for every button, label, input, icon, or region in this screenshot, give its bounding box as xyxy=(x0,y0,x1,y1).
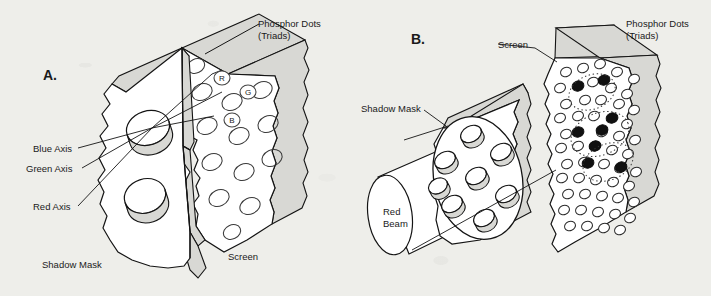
panel-a-red-axis-label: Red Axis xyxy=(33,201,71,212)
panel-b-phosphor-dots-label-line1: Phosphor Dots xyxy=(626,18,689,29)
panel-b-shadow-mask-label: Shadow Mask xyxy=(361,103,421,114)
crt-shadow-mask-figure: R G B A. Phosphor Dots (Triads) Blue Axi… xyxy=(0,0,711,296)
panel-b-red-beam-label-line1: Red xyxy=(383,206,400,217)
beam-marker-g-label: G xyxy=(245,88,251,97)
panel-b-letter: B. xyxy=(411,31,425,47)
panel-a: R G B A. Phosphor Dots (Triads) Blue Axi… xyxy=(26,14,321,278)
panel-b-screen-plate xyxy=(544,25,661,252)
panel-b-phosphor-dots-label-line2: (Triads) xyxy=(626,30,658,41)
panel-a-blue-axis-label: Blue Axis xyxy=(33,143,72,154)
beam-marker-g: G xyxy=(240,85,256,99)
panel-a-screen-label: Screen xyxy=(228,251,258,262)
panel-a-shadow-mask-label: Shadow Mask xyxy=(42,259,102,270)
panel-a-screen-plate xyxy=(182,14,309,252)
beam-marker-r-label: R xyxy=(219,74,225,83)
panel-b-shadow-mask-disc xyxy=(422,84,534,248)
panel-b: Red Beam xyxy=(361,18,689,258)
panel-b-red-beam-label-line2: Beam xyxy=(383,218,408,229)
panel-a-letter: A. xyxy=(43,67,57,83)
panel-b-screen-label: Screen xyxy=(498,39,528,50)
beam-marker-b: B xyxy=(224,113,240,127)
beam-marker-r: R xyxy=(214,71,230,85)
panel-a-phosphor-dots-label-line1: Phosphor Dots xyxy=(258,18,321,29)
panel-a-green-axis-label: Green Axis xyxy=(26,163,73,174)
panel-a-phosphor-dots-label-line2: (Triads) xyxy=(258,30,290,41)
beam-marker-b-label: B xyxy=(229,116,234,125)
panel-a-shadow-mask-plate xyxy=(98,48,206,278)
